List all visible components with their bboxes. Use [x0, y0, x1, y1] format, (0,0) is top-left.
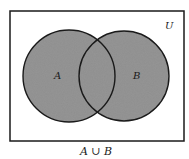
union-shading [23, 30, 169, 122]
set-a-label: A [53, 70, 61, 81]
venn-diagram: U A B A ∪ B [0, 0, 189, 159]
universe-label: U [165, 20, 174, 31]
caption: A ∪ B [79, 145, 112, 158]
set-b-label: B [132, 70, 140, 81]
